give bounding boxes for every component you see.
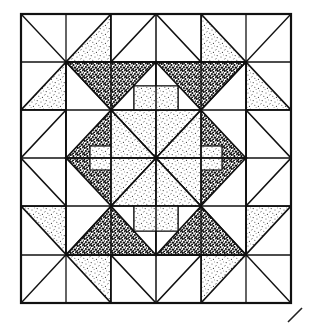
block-content [21, 14, 291, 303]
construction-lines [21, 14, 291, 303]
quilt-block-figure [0, 0, 311, 326]
quilt-block-svg [0, 0, 311, 326]
